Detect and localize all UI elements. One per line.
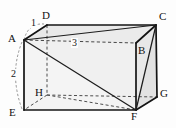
dimension-label-2: 2 xyxy=(10,69,17,79)
prism-drawing xyxy=(0,0,176,128)
vertex-label-E: E xyxy=(9,107,16,118)
vertex-label-B: B xyxy=(138,45,145,56)
geometry-figure: A B C D E F G H 1 2 3 xyxy=(0,0,176,128)
vertex-label-D: D xyxy=(42,10,50,21)
vertex-label-C: C xyxy=(159,11,166,22)
edge-CG xyxy=(156,25,157,97)
dimension-label-1: 1 xyxy=(30,18,37,28)
vertex-label-A: A xyxy=(8,33,16,44)
dimension-label-3: 3 xyxy=(71,38,78,48)
vertex-label-F: F xyxy=(131,111,137,122)
vertex-label-H: H xyxy=(35,87,43,98)
vertex-label-G: G xyxy=(160,88,168,99)
